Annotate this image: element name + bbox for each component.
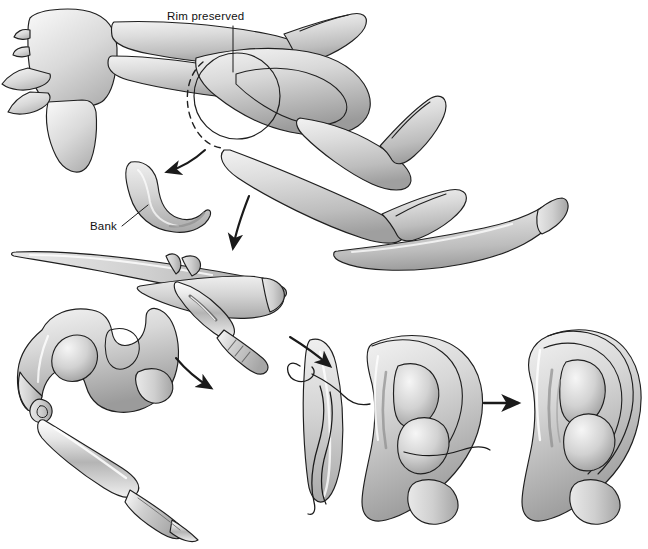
panel-assembly xyxy=(288,336,490,525)
synchondrosis-block xyxy=(196,48,371,135)
arrow-donor-to-carving xyxy=(233,196,249,248)
arrow-carving-to-base xyxy=(176,358,211,388)
arrow-harvest-to-bank xyxy=(167,150,205,172)
floating-rib-strip-cap xyxy=(537,198,568,234)
assembly-lobule xyxy=(408,480,458,525)
scalpel-handle xyxy=(217,330,268,374)
completed-lobule xyxy=(570,480,620,525)
costal-cartilage-rib-3b xyxy=(380,96,446,164)
label-rim-preserved: Rim preserved xyxy=(167,11,244,23)
xiphoid-process xyxy=(46,100,96,172)
sternum-notch-mid xyxy=(13,47,30,57)
panel-final xyxy=(522,330,641,524)
carving-gouge xyxy=(38,420,139,497)
illustration-canvas: Rim preserved Bank xyxy=(0,0,648,549)
base-block-spiral-curl xyxy=(30,399,52,422)
left-costal-arch-2 xyxy=(8,92,50,114)
panel-base-block-carving xyxy=(17,308,198,541)
medical-illustration-artwork xyxy=(0,0,648,549)
completed-concha-bowl xyxy=(564,414,615,471)
panel-donor-site xyxy=(2,9,568,270)
sternum-notch-upper xyxy=(14,29,30,39)
label-bank: Bank xyxy=(90,221,117,233)
